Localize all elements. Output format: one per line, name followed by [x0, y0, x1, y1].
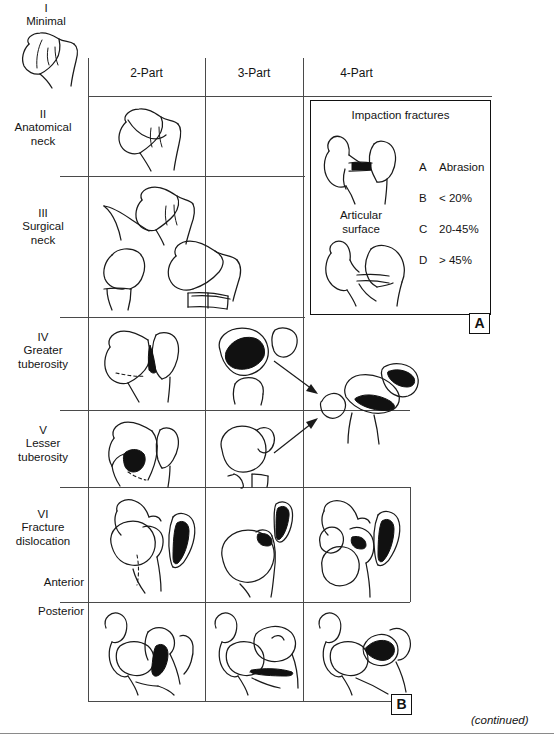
inset-title: Impaction fractures: [311, 109, 490, 121]
illustration-lesser-tuberosity-2part: [100, 418, 200, 488]
row-label-anterior: Anterior: [0, 576, 84, 590]
panel-label-b: B: [391, 694, 412, 715]
illustration-impaction-upper: [319, 129, 411, 205]
figure-page: I Minimal 2-Part 3-Part 4-Part II Anatom…: [0, 0, 554, 738]
row-label-surgical-neck-numeral: III: [0, 207, 86, 221]
illustration-minimal: [12, 28, 88, 90]
illustration-dislocation-posterior-2part: [96, 608, 204, 696]
illustration-dislocation-posterior-4part: [312, 608, 416, 696]
row-label-lesser-tuberosity-name: Lesser tuberosity: [0, 437, 86, 464]
grid-hline-header: [88, 96, 492, 97]
grid-hline-iii-iv: [60, 317, 305, 318]
grid-vline-col1: [205, 58, 206, 702]
grid-hline-bottom: [88, 701, 410, 702]
row-label-minimal-name: Minimal: [6, 15, 86, 29]
row-label-anatomical-neck-numeral: II: [0, 108, 86, 122]
legend-key-b: B: [419, 192, 427, 204]
illustration-dislocation-anterior-2part: [103, 495, 203, 597]
arrow-lesser-to-4part: [272, 410, 328, 456]
row-label-lesser-tuberosity-numeral: V: [0, 424, 86, 438]
illustration-greater-tuberosity-2part: [100, 325, 200, 403]
legend-value-d: > 45%: [439, 254, 472, 266]
illustration-dislocation-anterior-3part: [214, 498, 304, 598]
column-header-4-part: 4-Part: [303, 66, 410, 80]
legend-key-a: A: [419, 161, 427, 173]
row-label-fracture-dislocation-numeral: VI: [0, 508, 86, 522]
illustration-surgical-neck-2part-upper: [100, 184, 200, 246]
grid-vline-left: [88, 58, 89, 702]
panel-label-a: A: [469, 313, 490, 334]
illustration-dislocation-posterior-3part: [208, 608, 314, 696]
illustration-surgical-neck-2part-lower-right: [158, 238, 254, 310]
continued-note: (continued): [471, 714, 529, 726]
column-header-2-part: 2-Part: [88, 66, 205, 80]
legend-value-c: 20-45%: [439, 223, 479, 235]
footer-rule: [0, 733, 554, 734]
legend-key-d: D: [419, 254, 427, 266]
row-label-anatomical-neck-name: Anatomical neck: [0, 121, 86, 148]
illustration-dislocation-anterior-4part: [316, 495, 410, 599]
row-label-greater-tuberosity-numeral: IV: [0, 331, 86, 345]
illustration-anatomical-neck-2part: [106, 104, 194, 172]
legend-value-a: Abrasion: [439, 161, 484, 173]
column-header-3-part: 3-Part: [205, 66, 303, 80]
inset-articular-surface-label: Articular surface: [315, 209, 407, 236]
grid-hline-ii-iii: [60, 176, 305, 177]
row-label-surgical-neck-name: Surgical neck: [0, 220, 86, 247]
row-label-greater-tuberosity-name: Greater tuberosity: [0, 344, 86, 371]
illustration-surgical-neck-2part-lower-left: [98, 243, 150, 311]
grid-vline-right-vi: [410, 487, 411, 602]
legend-value-b: < 20%: [439, 192, 472, 204]
illustration-4part-combined: [318, 355, 428, 445]
grid-hline-anterior-posterior: [60, 602, 410, 603]
illustration-impaction-lower: [319, 237, 415, 307]
inset-panel-impaction-fractures: Impaction fractures Articular surface: [310, 100, 491, 315]
legend-key-c: C: [419, 223, 427, 235]
arrow-greater-to-4part: [272, 358, 328, 400]
row-label-posterior: Posterior: [0, 605, 84, 619]
row-label-fracture-dislocation-name: Fracture dislocation: [0, 521, 86, 548]
row-label-minimal-numeral: I: [6, 2, 86, 16]
